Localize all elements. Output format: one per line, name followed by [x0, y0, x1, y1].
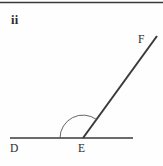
- point-label-e: E: [78, 143, 85, 155]
- point-label-f: F: [138, 34, 144, 46]
- ray-segment-EF: [83, 36, 157, 138]
- part-label: ii: [11, 14, 19, 27]
- geometry-figure: ii D E F: [0, 0, 163, 166]
- point-label-d: D: [10, 143, 18, 155]
